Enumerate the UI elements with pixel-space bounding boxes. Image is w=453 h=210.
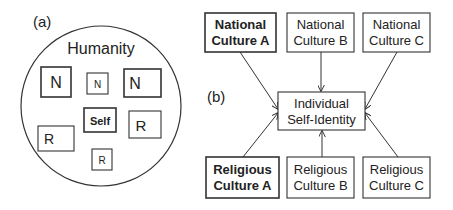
religious-box-small-text: R <box>98 155 105 166</box>
religious-culture-c-line2: Culture C <box>369 178 424 193</box>
religious-culture-a-line1: Religious <box>213 162 272 177</box>
national-box-small: N <box>87 73 108 94</box>
national-culture-a-box: National Culture A <box>205 13 276 52</box>
religious-box-left-text: R <box>44 131 54 147</box>
individual-self-identity-line2: Self-Identity <box>287 112 356 127</box>
national-box-large: N <box>41 67 71 97</box>
religious-box-right: R <box>129 111 161 138</box>
national-box-right: N <box>124 69 161 97</box>
religious-culture-c-box: Religious Culture C <box>363 157 430 198</box>
individual-self-identity-box: Individual Self-Identity <box>278 92 365 130</box>
national-culture-a-line1: National <box>215 17 266 32</box>
edge-religious-c <box>365 113 398 157</box>
national-box-small-text: N <box>94 79 101 90</box>
national-culture-b-line2: Culture B <box>293 33 347 48</box>
religious-culture-b-box: Religious Culture B <box>287 157 354 198</box>
self-box-text: Self <box>90 115 111 127</box>
religious-box-right-text: R <box>136 117 147 134</box>
diagram-canvas: (a) Humanity N N N Self R R R <box>0 0 453 210</box>
religious-culture-b-line1: Religious <box>294 162 348 177</box>
edge-national-c <box>365 52 397 109</box>
national-culture-b-line1: National <box>297 17 345 32</box>
religious-culture-b-line2: Culture B <box>293 178 347 193</box>
national-culture-c-line1: National <box>373 17 421 32</box>
panel-a-label: (a) <box>33 13 51 30</box>
panel-a: (a) Humanity N N N Self R R R <box>21 13 181 186</box>
national-culture-b-box: National Culture B <box>287 13 354 52</box>
panel-b-label: (b) <box>207 88 225 105</box>
national-culture-c-line2: Culture C <box>369 33 424 48</box>
religious-culture-a-box: Religious Culture A <box>206 157 279 198</box>
self-box: Self <box>84 108 116 132</box>
national-culture-c-box: National Culture C <box>363 13 430 52</box>
edge-national-a <box>240 52 278 109</box>
panel-b: (b) Individual Self-Identity National Cu… <box>205 13 430 198</box>
religious-box-left: R <box>38 126 74 151</box>
individual-self-identity-line1: Individual <box>294 96 349 111</box>
religious-box-small: R <box>92 149 112 170</box>
humanity-label: Humanity <box>67 40 135 57</box>
national-box-right-text: N <box>129 75 141 92</box>
national-culture-a-line2: Culture A <box>211 33 270 48</box>
national-box-large-text: N <box>50 74 62 91</box>
religious-culture-a-line2: Culture A <box>213 178 272 193</box>
religious-culture-c-line1: Religious <box>370 162 424 177</box>
edge-religious-a <box>243 113 278 157</box>
